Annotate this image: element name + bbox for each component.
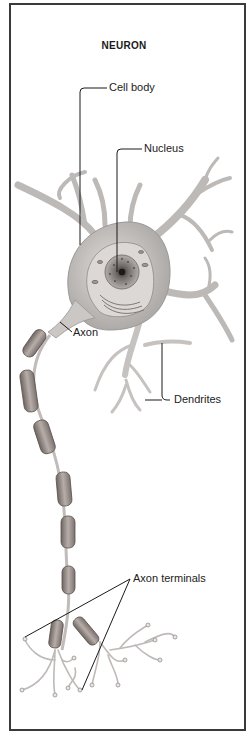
- neuron-illustration: [0, 0, 248, 740]
- myelin-sheath: [19, 327, 101, 648]
- axon-terminals-leader: [25, 579, 130, 690]
- diagram-title: NEURON: [0, 40, 248, 51]
- axon-terminal-branches: [22, 625, 175, 695]
- label-axon: Axon: [73, 326, 98, 338]
- label-dendrites: Dendrites: [174, 393, 221, 405]
- label-cell-body: Cell body: [109, 81, 155, 93]
- label-axon-terminals: Axon terminals: [133, 572, 206, 584]
- label-nucleus: Nucleus: [144, 142, 184, 154]
